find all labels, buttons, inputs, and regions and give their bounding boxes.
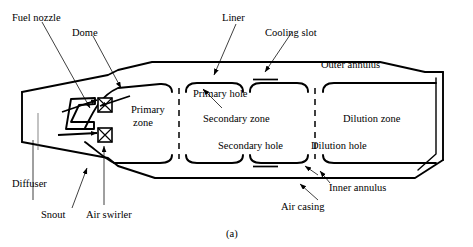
liner-upper-seg-3 <box>250 83 308 92</box>
flow-arrow-lower-air <box>58 133 97 135</box>
leader-lines <box>42 22 330 208</box>
label-primary-hole: Primary hole <box>193 88 248 100</box>
label-primary-zone-line2: zone <box>133 117 153 129</box>
liner-dome-curve-lower <box>85 142 172 163</box>
leader-secondary-hole <box>305 166 318 175</box>
figure-canvas: Fuel nozzle Dome Liner Cooling slot Oute… <box>0 0 473 247</box>
label-air-casing: Air casing <box>281 201 324 213</box>
label-outer-annulus: Outer annulus <box>321 59 380 71</box>
label-inner-annulus: Inner annulus <box>329 182 386 194</box>
label-fuel-nozzle: Fuel nozzle <box>12 12 61 24</box>
label-cooling-slot: Cooling slot <box>265 27 317 39</box>
flow-arrow-upper-air <box>62 100 97 112</box>
casing-inner-offset <box>418 78 436 170</box>
label-secondary-hole: Secondary hole <box>218 140 283 152</box>
liner-upper-seg-4 <box>323 83 436 92</box>
label-secondary-zone: Secondary zone <box>203 113 270 125</box>
casing-inner-offset-path <box>418 78 436 170</box>
label-liner: Liner <box>222 12 245 24</box>
air-swirler-lower <box>98 128 112 142</box>
liner-lower-seg-4 <box>323 155 436 163</box>
leader-snout <box>72 168 87 208</box>
label-dilution-zone: Dilution zone <box>343 113 400 125</box>
label-dilution-hole: Dilution hole <box>311 140 367 152</box>
figure-caption: (a) <box>226 228 238 239</box>
label-air-swirler: Air swirler <box>86 209 132 221</box>
label-snout: Snout <box>41 209 66 221</box>
liner-lower-seg-2 <box>186 155 243 163</box>
leader-air-casing <box>300 184 318 200</box>
leader-dome <box>93 36 121 88</box>
leader-liner <box>214 24 236 75</box>
label-diffuser: Diffuser <box>12 178 47 190</box>
liner-lower-seg-3 <box>250 155 308 163</box>
label-primary-zone-line1: Primary <box>131 104 165 116</box>
label-dome: Dome <box>72 27 98 39</box>
